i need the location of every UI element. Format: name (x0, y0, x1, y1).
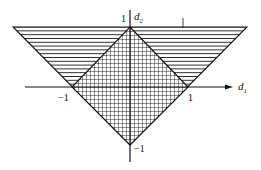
x-axis-label: d1 (238, 80, 247, 95)
x-neg-label: −1 (58, 92, 69, 103)
x-axis-arrow-icon (225, 85, 233, 90)
diagram-canvas: 1 d2 −1 1 d1 −1 (0, 0, 261, 170)
y-neg-label: −1 (134, 143, 145, 154)
y-axis-label: d2 (134, 10, 144, 25)
y-pos-label: 1 (121, 13, 126, 24)
x-pos-label: 1 (188, 92, 193, 103)
